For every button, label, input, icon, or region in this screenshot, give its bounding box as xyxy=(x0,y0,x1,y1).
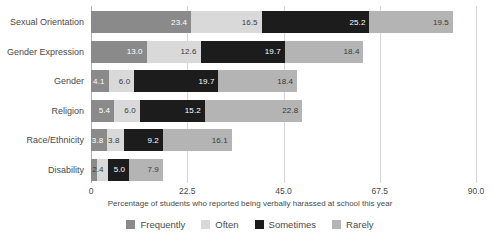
legend-swatch-icon xyxy=(201,220,210,229)
chart-legend: FrequentlyOftenSometimesRarely xyxy=(0,219,500,230)
bar-value-label: 16.5 xyxy=(242,18,262,27)
gridline xyxy=(476,6,477,183)
stacked-bar: 3.83.89.216.1 xyxy=(91,129,232,151)
bar-value-label: 16.1 xyxy=(212,136,232,145)
legend-label: Rarely xyxy=(346,219,373,230)
legend-swatch-icon xyxy=(126,220,135,229)
legend-label: Often xyxy=(215,219,238,230)
bar-segment-sometimes: 19.7 xyxy=(134,70,218,92)
legend-swatch-icon xyxy=(332,220,341,229)
stacked-bar: 13.012.619.718.4 xyxy=(91,41,363,63)
bar-segment-rarely: 19.5 xyxy=(369,11,452,33)
bar-value-label: 22.8 xyxy=(282,106,302,115)
bar-row: 5.46.015.222.8 xyxy=(91,100,476,122)
bar-segment-sometimes: 5.0 xyxy=(108,159,129,181)
stacked-bar: 4.16.019.718.4 xyxy=(91,70,297,92)
bar-value-label: 6.0 xyxy=(119,77,134,86)
bar-value-label: 5.4 xyxy=(99,106,114,115)
bar-value-label: 7.9 xyxy=(147,165,162,174)
bar-segment-rarely: 18.4 xyxy=(218,70,297,92)
bar-value-label: 12.6 xyxy=(181,47,201,56)
x-axis-tick: 67.5 xyxy=(371,186,388,196)
bar-row: 2.45.07.9 xyxy=(91,159,476,181)
bar-value-label: 25.2 xyxy=(349,18,369,27)
bar-row: 13.012.619.718.4 xyxy=(91,41,476,63)
y-axis-category-label: Religion xyxy=(0,106,84,116)
bar-segment-frequently: 5.4 xyxy=(91,100,114,122)
bar-segment-rarely: 7.9 xyxy=(129,159,163,181)
bar-value-label: 19.7 xyxy=(198,77,218,86)
legend-label: Sometimes xyxy=(269,219,317,230)
y-axis-category-label: Gender xyxy=(0,76,84,86)
bar-value-label: 18.4 xyxy=(277,77,297,86)
bar-row: 3.83.89.216.1 xyxy=(91,129,476,151)
bar-value-label: 3.8 xyxy=(108,136,123,145)
legend-swatch-icon xyxy=(255,220,264,229)
bar-segment-sometimes: 9.2 xyxy=(124,129,163,151)
bar-segment-frequently: 23.4 xyxy=(91,11,191,33)
bar-segment-rarely: 16.1 xyxy=(163,129,232,151)
bar-row: 23.416.525.219.5 xyxy=(91,11,476,33)
x-axis-tick: 22.5 xyxy=(179,186,196,196)
bar-segment-often: 2.4 xyxy=(97,159,107,181)
bar-value-label: 5.0 xyxy=(114,165,129,174)
bar-value-label: 23.4 xyxy=(171,18,191,27)
x-axis-tick: 0 xyxy=(89,186,94,196)
y-axis-category-label: Race/Ethnicity xyxy=(0,135,84,145)
bar-segment-often: 3.8 xyxy=(107,129,123,151)
bar-segment-often: 6.0 xyxy=(109,70,135,92)
stacked-bar: 2.45.07.9 xyxy=(91,159,163,181)
bar-segment-sometimes: 19.7 xyxy=(201,41,285,63)
legend-label: Frequently xyxy=(140,219,185,230)
stacked-bar: 5.46.015.222.8 xyxy=(91,100,302,122)
bar-segment-rarely: 22.8 xyxy=(205,100,303,122)
bar-segment-sometimes: 15.2 xyxy=(140,100,205,122)
bar-segment-sometimes: 25.2 xyxy=(262,11,370,33)
y-axis-category-label: Gender Expression xyxy=(0,47,84,57)
legend-item[interactable]: Often xyxy=(201,219,238,230)
x-axis-tick: 90.0 xyxy=(468,186,485,196)
bar-value-label: 9.2 xyxy=(147,136,162,145)
bar-value-label: 13.0 xyxy=(127,47,147,56)
bar-value-label: 18.4 xyxy=(343,47,363,56)
stacked-bar-chart: Sexual OrientationGender ExpressionGende… xyxy=(0,0,500,240)
bar-value-label: 6.0 xyxy=(124,106,139,115)
bar-segment-often: 6.0 xyxy=(114,100,140,122)
bar-value-label: 19.7 xyxy=(265,47,285,56)
legend-item[interactable]: Rarely xyxy=(332,219,373,230)
bar-segment-frequently: 3.8 xyxy=(91,129,107,151)
bar-segment-rarely: 18.4 xyxy=(285,41,364,63)
bar-value-label: 4.1 xyxy=(93,77,108,86)
bar-value-label: 15.2 xyxy=(185,106,205,115)
bar-value-label: 3.8 xyxy=(92,136,107,145)
y-axis-category-label: Disability xyxy=(0,165,84,175)
bar-segment-often: 12.6 xyxy=(147,41,201,63)
bar-row: 4.16.019.718.4 xyxy=(91,70,476,92)
bar-segment-frequently: 13.0 xyxy=(91,41,147,63)
y-axis-category-label: Sexual Orientation xyxy=(0,17,84,27)
x-axis-tick: 45.0 xyxy=(275,186,292,196)
bar-value-label: 2.4 xyxy=(92,165,107,174)
bar-segment-frequently: 4.1 xyxy=(91,70,109,92)
stacked-bar: 23.416.525.219.5 xyxy=(91,11,453,33)
bar-segment-often: 16.5 xyxy=(191,11,262,33)
bar-value-label: 19.5 xyxy=(433,18,453,27)
legend-item[interactable]: Sometimes xyxy=(255,219,317,230)
legend-item[interactable]: Frequently xyxy=(126,219,185,230)
bars-layer: 23.416.525.219.513.012.619.718.44.16.019… xyxy=(91,6,476,183)
x-axis-title: Percentage of students who reported bein… xyxy=(0,199,500,208)
